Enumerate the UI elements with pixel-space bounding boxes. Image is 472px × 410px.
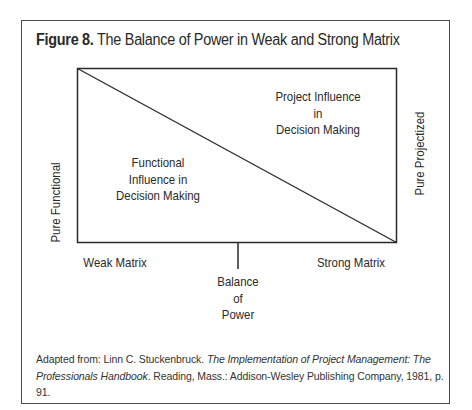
balance-diagram bbox=[0, 0, 472, 410]
caption-book-title-1: The Implementation of Project Management… bbox=[207, 353, 410, 365]
figure-caption: Adapted from: Linn C. Stuckenbruck. The … bbox=[36, 351, 446, 401]
weak-matrix-label: Weak Matrix bbox=[75, 255, 154, 272]
caption-prefix: Adapted from: Linn C. Stuckenbruck. bbox=[36, 353, 207, 365]
pure-projectized-label: Pure Projectized bbox=[412, 110, 427, 198]
strong-matrix-label: Strong Matrix bbox=[311, 255, 390, 272]
project-influence-label: Project Influence in Decision Making bbox=[265, 89, 371, 139]
pure-functional-label: Pure Functional bbox=[48, 159, 63, 247]
balance-of-power-label: Balance of Power bbox=[203, 274, 273, 324]
functional-influence-label: Functional Influence in Decision Making bbox=[105, 155, 211, 205]
